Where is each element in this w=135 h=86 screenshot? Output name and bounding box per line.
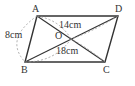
vertex-c-label: C: [103, 65, 110, 75]
vertex-a-label: A: [32, 4, 39, 14]
vertex-o-label: O: [55, 31, 62, 41]
ao-length: 14cm: [59, 20, 81, 30]
vertex-b-label: B: [21, 65, 28, 75]
vertex-d-label: D: [115, 4, 122, 14]
bo-length: 18cm: [56, 46, 78, 56]
side-ab-length: 8cm: [5, 30, 22, 40]
